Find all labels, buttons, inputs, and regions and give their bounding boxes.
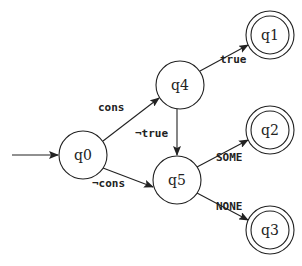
state-q2-accepting: q2 — [246, 106, 294, 154]
state-label: q5 — [168, 172, 186, 188]
edge-label-cons: cons — [98, 101, 125, 114]
diagram-svg: q0 q4 q5 q1 q2 q3 cons ¬cons true ¬true … — [0, 0, 302, 266]
state-q5: q5 — [153, 156, 201, 204]
state-label: q0 — [74, 147, 92, 163]
automaton-diagram: q0 q4 q5 q1 q2 q3 cons ¬cons true ¬true … — [0, 0, 302, 266]
edge-label-true: true — [220, 53, 247, 66]
edge-label-not-cons: ¬cons — [92, 177, 125, 190]
state-q4: q4 — [156, 61, 204, 109]
edge-label-some: SOME — [216, 151, 243, 164]
state-label: q3 — [261, 222, 279, 238]
state-q0: q0 — [59, 131, 107, 179]
state-label: q2 — [261, 122, 279, 138]
edge-label-none: NONE — [216, 200, 243, 213]
state-label: q1 — [261, 27, 279, 43]
edge-label-not-true: ¬true — [135, 127, 168, 140]
state-label: q4 — [171, 77, 189, 93]
state-q1-accepting: q1 — [246, 11, 294, 59]
state-q3-accepting: q3 — [246, 206, 294, 254]
